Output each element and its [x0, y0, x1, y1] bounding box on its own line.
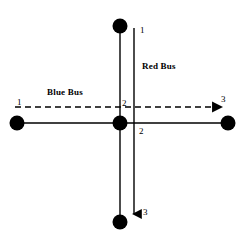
blue-bus-stop-1-label: 1	[17, 98, 22, 107]
bus-route-diagram: 1 Red Bus 2 3 1 Blue Bus 2 3	[0, 0, 248, 237]
center-node	[113, 116, 128, 131]
bottom-node	[113, 215, 128, 230]
red-bus-label: Red Bus	[142, 62, 176, 71]
blue-bus-stop-3-label: 3	[221, 95, 226, 104]
left-node	[10, 116, 25, 131]
blue-bus-label: Blue Bus	[47, 88, 83, 97]
right-node	[221, 116, 236, 131]
red-bus-stop-1-label: 1	[140, 26, 145, 35]
diagram-canvas	[0, 0, 248, 237]
red-bus-stop-3-label: 3	[143, 208, 148, 217]
red-bus-stop-2-label: 2	[122, 99, 127, 108]
blue-bus-stop-2-label: 2	[139, 127, 144, 136]
top-node	[113, 19, 128, 34]
